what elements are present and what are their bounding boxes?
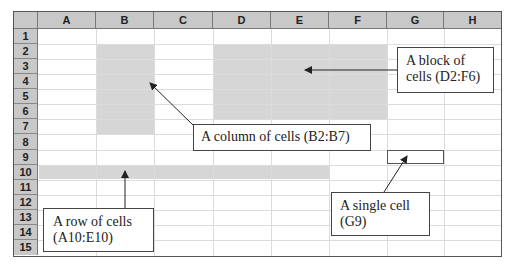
callout-row-line2: (A10:E10) — [53, 230, 144, 246]
callout-column: A column of cells (B2:B7) — [193, 124, 371, 151]
callout-single-line2: (G9) — [340, 214, 421, 230]
arrow-to-single-cell — [384, 156, 407, 192]
callout-block-line2: cells (D2:F6) — [406, 69, 485, 85]
callout-row: A row of cells (A10:E10) — [43, 208, 154, 252]
callout-row-line1: A row of cells — [53, 214, 144, 230]
arrow-to-column — [150, 83, 193, 125]
callout-column-line1: A column of cells (B2:B7) — [201, 129, 363, 145]
callout-block-line1: A block of — [406, 53, 485, 69]
callout-block: A block of cells (D2:F6) — [397, 47, 494, 93]
callout-single-cell: A single cell (G9) — [331, 192, 430, 236]
callout-single-line1: A single cell — [340, 198, 421, 214]
